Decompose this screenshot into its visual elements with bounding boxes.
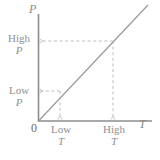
origin-label: 0 bbox=[31, 122, 37, 134]
pressure-temperature-figure: P T 0 High P Low P Low T High T bbox=[0, 0, 160, 160]
x-tick-low-t-variable: T bbox=[45, 136, 77, 147]
proportionality-line bbox=[39, 5, 149, 121]
x-tick-low-t-word: Low bbox=[45, 124, 77, 135]
y-tick-high-p-variable: P bbox=[2, 45, 36, 56]
y-tick-low-p-word: Low bbox=[2, 85, 36, 96]
y-tick-high-p: High P bbox=[2, 33, 36, 56]
y-axis-label: P bbox=[29, 3, 36, 15]
y-tick-high-p-word: High bbox=[2, 33, 36, 44]
x-tick-low-t: Low T bbox=[45, 124, 77, 147]
x-tick-high-t: High T bbox=[97, 124, 131, 147]
x-axis-label: T bbox=[139, 118, 146, 130]
y-tick-low-p-variable: P bbox=[2, 97, 36, 108]
figure-canvas bbox=[0, 0, 160, 160]
y-tick-low-p: Low P bbox=[2, 85, 36, 108]
x-tick-high-t-word: High bbox=[97, 124, 131, 135]
x-tick-high-t-variable: T bbox=[97, 136, 131, 147]
